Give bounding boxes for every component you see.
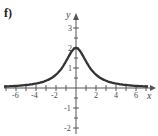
x-axis-label: x <box>147 90 151 101</box>
axes <box>4 16 150 134</box>
x-tick-label: 6 <box>134 91 138 100</box>
y-tick-label: 2 <box>68 44 72 53</box>
y-tick-label: -1 <box>64 104 71 113</box>
y-axis-label: y <box>66 9 70 20</box>
y-tick-label: -2 <box>64 124 71 133</box>
x-tick-label: -2 <box>51 91 58 100</box>
plot-area <box>0 0 158 136</box>
y-tick-label: 3 <box>68 24 72 33</box>
x-tick-label: 4 <box>114 91 118 100</box>
y-axis-arrow-icon <box>73 13 79 20</box>
y-tick-label: 1 <box>68 64 72 73</box>
x-tick-label: 2 <box>94 91 98 100</box>
x-tick-label: -4 <box>31 91 38 100</box>
x-tick-label: -6 <box>12 91 19 100</box>
